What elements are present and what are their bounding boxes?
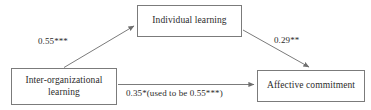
node-inter-organizational-learning-label: Inter-organizational learning [22, 75, 105, 99]
path-coefficient-b: 0.29** [274, 35, 299, 45]
mediation-path-diagram: Individual learning Inter-organizational… [0, 0, 371, 110]
path-coefficient-c: 0.35*(used to be 0.55***) [126, 88, 223, 98]
node-affective-commitment: Affective commitment [257, 70, 365, 102]
arrow-a-path [64, 26, 134, 68]
node-affective-commitment-label: Affective commitment [264, 80, 358, 92]
node-individual-learning: Individual learning [137, 5, 242, 37]
node-individual-learning-label: Individual learning [149, 15, 229, 27]
path-coefficient-a: 0.55*** [38, 36, 68, 46]
node-inter-organizational-learning: Inter-organizational learning [11, 68, 117, 105]
